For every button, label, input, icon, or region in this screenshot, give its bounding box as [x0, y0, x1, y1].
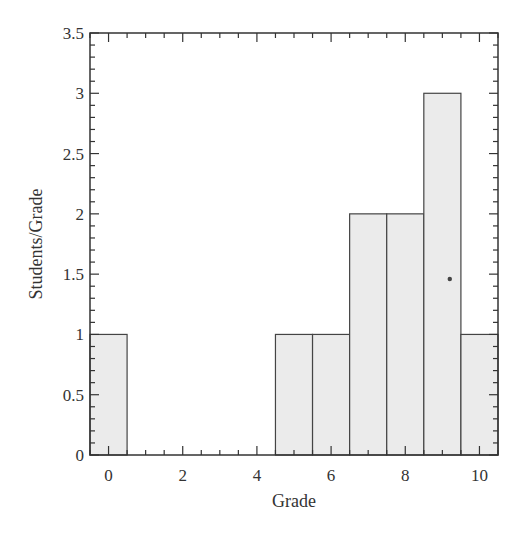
bar-grade-5: [275, 334, 312, 455]
bar-grade-9: [424, 93, 461, 455]
annotations-group: [448, 277, 452, 281]
y-tick-label: 3: [76, 84, 85, 103]
x-tick-label: 0: [104, 466, 113, 485]
y-tick-label: 2: [76, 205, 85, 224]
x-tick-labels: 0246810: [104, 466, 488, 485]
x-tick-label: 10: [471, 466, 488, 485]
histogram-chart: 0246810 00.511.522.533.5 Grade Students/…: [0, 0, 523, 535]
y-tick-label: 0: [76, 446, 85, 465]
x-tick-label: 6: [327, 466, 336, 485]
bar-grade-7: [350, 214, 387, 455]
bar-grade-6: [313, 334, 350, 455]
y-tick-label: 1.5: [63, 265, 84, 284]
y-tick-label: 0.5: [63, 386, 84, 405]
bar-grade-8: [387, 214, 424, 455]
marker-dot: [448, 277, 452, 281]
x-tick-label: 4: [253, 466, 262, 485]
y-tick-labels: 00.511.522.533.5: [63, 24, 84, 465]
y-axis-title: Students/Grade: [26, 189, 46, 300]
y-tick-label: 2.5: [63, 145, 84, 164]
x-tick-label: 2: [178, 466, 187, 485]
y-tick-label: 1: [76, 325, 85, 344]
x-tick-label: 8: [401, 466, 410, 485]
y-tick-label: 3.5: [63, 24, 84, 43]
x-axis-title: Grade: [272, 491, 316, 511]
bars-group: [90, 93, 498, 455]
